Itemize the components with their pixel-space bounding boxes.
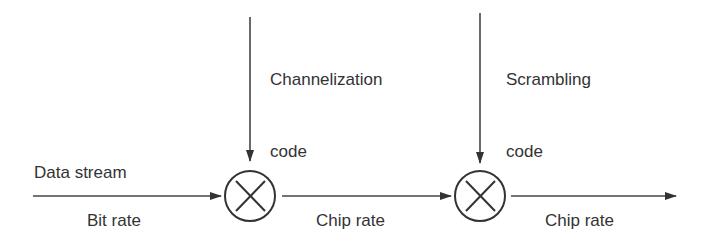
channelization-label-line2: code — [270, 140, 382, 164]
channelization-code-label: Channelization code — [270, 20, 382, 212]
bit-rate-label: Bit rate — [87, 209, 141, 233]
spreading-diagram: Channelization code Scrambling code Data… — [0, 0, 710, 245]
channelization-label-line1: Channelization — [270, 68, 382, 92]
scrambling-code-label: Scrambling code — [506, 20, 591, 212]
multiplier-1-icon — [225, 171, 275, 221]
multiplier-2-icon — [455, 171, 505, 221]
data-stream-label: Data stream — [34, 161, 127, 185]
output-chip-rate-label: Chip rate — [545, 209, 614, 233]
middle-chip-rate-label: Chip rate — [316, 209, 385, 233]
scrambling-label-line2: code — [506, 140, 591, 164]
scrambling-label-line1: Scrambling — [506, 68, 591, 92]
